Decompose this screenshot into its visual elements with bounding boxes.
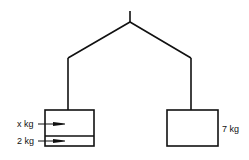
x-kg-arrow-icon [53,122,65,126]
balance-scale-diagram: x kg 2 kg 7 kg [0,0,249,160]
two-kg-arrow-icon [53,139,65,143]
scale-beam [68,22,191,58]
right-pan-box [167,110,218,146]
two-kg-label: 2 kg [17,136,34,146]
x-kg-label: x kg [17,119,34,129]
seven-kg-label: 7 kg [222,124,239,134]
